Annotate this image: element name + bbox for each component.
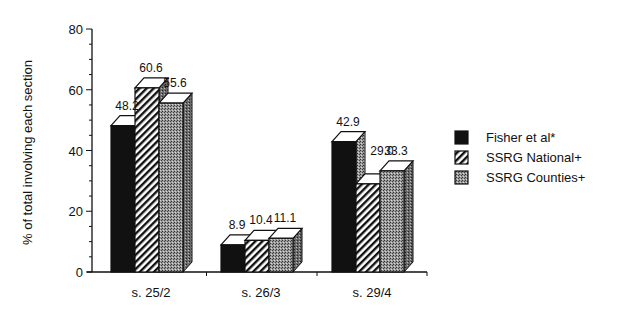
bar	[380, 161, 413, 272]
x-tick-label: s. 25/2	[131, 285, 170, 300]
y-tick-label: 60	[69, 83, 83, 98]
y-tick-label: 80	[69, 22, 83, 37]
legend-label: SSRG National+	[486, 150, 582, 165]
bar	[159, 93, 192, 272]
y-tick-label: 20	[69, 204, 83, 219]
bar-value-label: 55.6	[163, 76, 187, 90]
legend-item: Fisher et al*	[455, 130, 555, 145]
bar-value-label: 33.3	[384, 144, 408, 158]
legend-swatch	[455, 131, 468, 144]
bar-value-label: 11.1	[274, 211, 297, 225]
legend: Fisher et al*SSRG National+SSRG Counties…	[455, 130, 585, 185]
bar-group: 42.929.033.3s. 29/4	[332, 115, 413, 300]
y-tick-label: 0	[76, 265, 83, 280]
y-axis-label: % of total involving each section	[20, 60, 35, 245]
x-tick-label: s. 26/3	[241, 285, 280, 300]
bar	[269, 228, 302, 272]
legend-item: SSRG National+	[455, 150, 582, 165]
bar-group: 48.260.655.6s. 25/2	[111, 61, 192, 300]
y-tick-label: 40	[69, 144, 83, 159]
bar-chart: % of total involving each section 020406…	[0, 0, 617, 321]
bar-value-label: 8.9	[229, 218, 246, 232]
bar-value-label: 42.9	[336, 115, 360, 129]
legend-swatch	[455, 171, 468, 184]
bar-value-label: 60.6	[139, 61, 163, 75]
bar-value-label: 48.2	[115, 99, 139, 113]
bar-value-label: 10.4	[249, 213, 273, 227]
legend-item: SSRG Counties+	[455, 170, 585, 185]
legend-label: SSRG Counties+	[486, 170, 585, 185]
legend-swatch	[455, 151, 468, 164]
bar-group: 8.910.411.1s. 26/3	[221, 211, 302, 300]
legend-label: Fisher et al*	[486, 130, 555, 145]
bars: 48.260.655.6s. 25/28.910.411.1s. 26/342.…	[111, 61, 413, 300]
y-axis-title: % of total involving each section	[20, 60, 35, 245]
x-tick-label: s. 29/4	[352, 285, 391, 300]
